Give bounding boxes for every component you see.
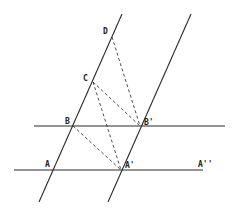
line-a1b1	[108, 14, 191, 202]
line-abcd	[39, 14, 122, 202]
label-c: C	[83, 74, 88, 83]
label-b: B	[65, 117, 70, 126]
label-b-prime: B'	[144, 118, 154, 127]
segment-b-a1	[73, 126, 121, 170]
label-a: A	[45, 160, 50, 169]
label-d: D	[103, 27, 108, 36]
label-a-double-prime: A''	[198, 160, 212, 169]
label-a-prime: A'	[125, 161, 135, 170]
geometry-diagram: D C B B' A A' A''	[0, 0, 236, 216]
